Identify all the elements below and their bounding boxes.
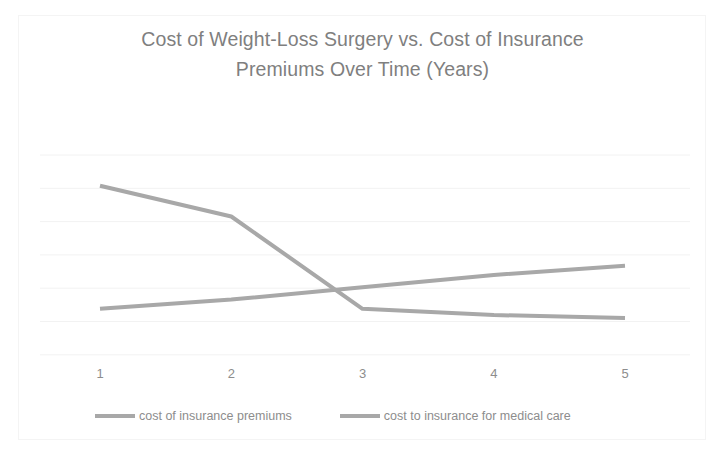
x-tick-label-1: 1 — [80, 366, 120, 381]
gridlines — [40, 155, 690, 355]
x-tick-label-4: 4 — [474, 366, 514, 381]
x-axis-tick-labels: 12345 — [0, 366, 724, 390]
series-line-0 — [100, 266, 625, 309]
plot-svg — [0, 0, 724, 461]
legend-swatch-icon — [340, 414, 380, 418]
plot-area — [0, 0, 724, 461]
series-line-1 — [100, 186, 625, 318]
legend-label: cost of insurance premiums — [139, 409, 292, 423]
x-tick-label-3: 3 — [343, 366, 383, 381]
legend-item-1[interactable]: cost to insurance for medical care — [340, 406, 571, 426]
legend-item-0[interactable]: cost of insurance premiums — [95, 406, 292, 426]
chart-screenshot: Cost of Weight-Loss Surgery vs. Cost of … — [0, 0, 724, 461]
x-tick-label-2: 2 — [211, 366, 251, 381]
x-tick-label-5: 5 — [605, 366, 645, 381]
legend-label: cost to insurance for medical care — [384, 409, 571, 423]
legend-swatch-icon — [95, 414, 135, 418]
series-lines — [100, 186, 625, 318]
chart-legend: cost of insurance premiumscost to insura… — [95, 404, 655, 428]
